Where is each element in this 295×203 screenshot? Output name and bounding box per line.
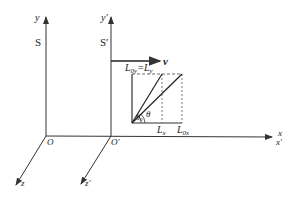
x-prime-axis-label: x′ <box>275 137 283 147</box>
y-axis-label: y <box>34 12 40 23</box>
diagram-svg: y S y′ S′ v L0y=Ly Lx L0x θ0 θ x x′ O O′… <box>0 0 295 203</box>
L0y-label: L0y=Ly <box>124 62 153 75</box>
z-axis-label: z <box>20 178 25 188</box>
x-axis <box>46 136 272 137</box>
theta-label: θ <box>146 109 151 119</box>
relativity-rod-diagram: y S y′ S′ v L0y=Ly Lx L0x θ0 θ x x′ O O′… <box>0 0 295 203</box>
z-prime-axis-label: z′ <box>84 178 92 188</box>
origin-O-prime-label: O′ <box>111 137 120 147</box>
velocity-label: v <box>163 55 168 67</box>
frame-s-prime-label: S′ <box>100 36 109 48</box>
L0x-label: L0x <box>176 124 190 137</box>
frame-s-label: S <box>35 36 41 48</box>
s-prime-z-axis <box>81 136 111 184</box>
y-prime-axis-label: y′ <box>100 12 108 23</box>
origin-O-label: O <box>47 137 54 147</box>
Lx-label: Lx <box>156 124 167 137</box>
